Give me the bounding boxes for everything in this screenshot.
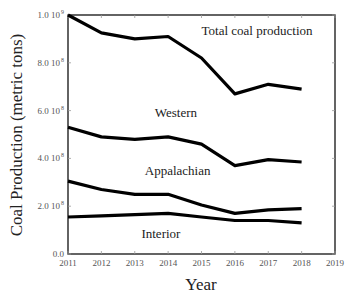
series-label: Interior <box>141 226 181 241</box>
line-chart: 0.02.0 1084.0 1086.0 1088.0 1081.0 109 2… <box>0 0 351 293</box>
x-tick-label: 2013 <box>126 258 145 268</box>
series-label: Appalachian <box>145 163 211 178</box>
x-tick-label: 2011 <box>59 258 77 268</box>
y-tick-label: 4.0 10 <box>38 153 61 163</box>
y-tick-label: 8.0 10 <box>38 58 61 68</box>
y-axis-title: Coal Production (metric tons) <box>7 34 26 237</box>
x-axis-ticks: 201120122013201420152016201720182019 <box>59 15 344 268</box>
y-tick-exponent: 9 <box>61 9 64 15</box>
y-tick-exponent: 8 <box>61 105 64 111</box>
series-label: Western <box>155 105 198 120</box>
series-line-western <box>68 127 302 165</box>
x-tick-label: 2019 <box>326 258 345 268</box>
x-tick-label: 2015 <box>193 258 212 268</box>
y-tick-exponent: 8 <box>61 152 64 158</box>
x-tick-label: 2016 <box>226 258 245 268</box>
y-tick-exponent: 8 <box>61 57 64 63</box>
series-line-interior <box>68 213 302 223</box>
x-tick-label: 2014 <box>159 258 178 268</box>
y-tick-exponent: 8 <box>61 200 64 206</box>
y-tick-label: 1.0 10 <box>38 10 61 20</box>
series-label: Total coal production <box>202 23 314 38</box>
y-tick-label: 6.0 10 <box>38 106 61 116</box>
series-line-appalachian <box>68 181 302 213</box>
x-tick-label: 2017 <box>259 258 278 268</box>
y-tick-label: 2.0 10 <box>38 201 61 211</box>
x-tick-label: 2012 <box>92 258 110 268</box>
x-axis-title: Year <box>185 275 217 293</box>
x-tick-label: 2018 <box>293 258 312 268</box>
